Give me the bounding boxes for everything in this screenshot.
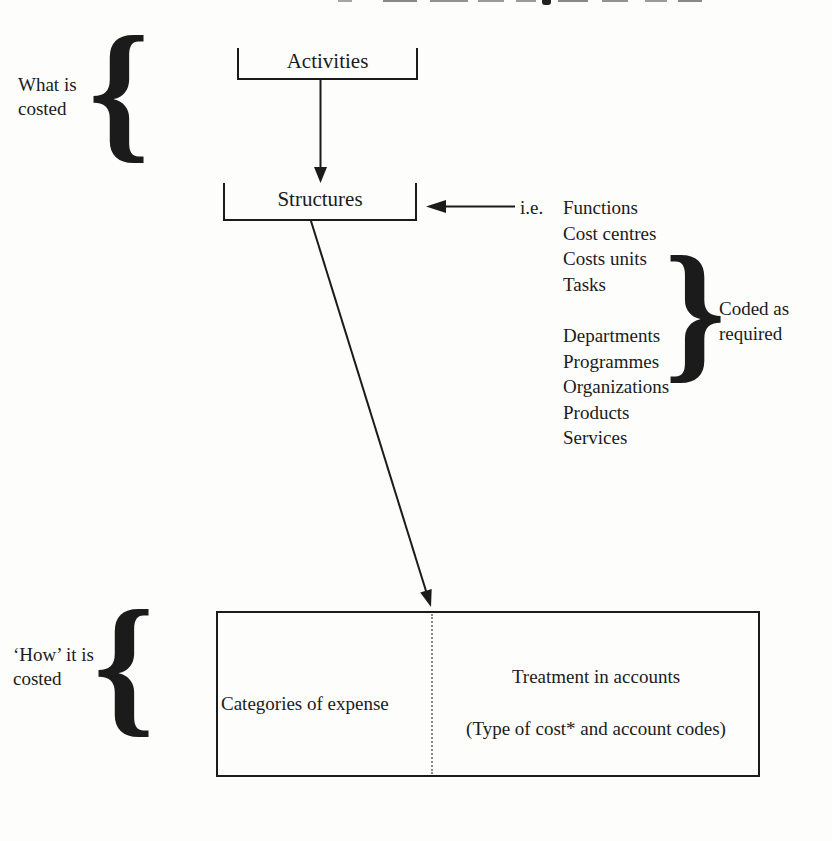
arrow-examples-to-structures xyxy=(426,200,515,213)
example-costs-units: Costs units xyxy=(563,246,669,272)
arrow-activities-to-structures xyxy=(314,80,327,183)
scanned-diagram-page: What is costed { Activities Structures i… xyxy=(0,0,832,841)
expense-box: Categories of expense Treatment in accou… xyxy=(216,611,760,777)
structure-examples-list: Functions Cost centres Costs units Tasks… xyxy=(563,195,669,451)
how-it-is-costed-line1: ‘How’ it is xyxy=(13,643,94,667)
coded-as-required-label: Coded as required xyxy=(719,296,789,346)
ie-prefix: i.e. xyxy=(520,195,543,220)
coded-as-line1: Coded as xyxy=(719,296,789,321)
example-programmes: Programmes xyxy=(563,349,669,375)
arrow-structures-to-expense-box xyxy=(311,221,432,607)
treatment-in-accounts-cell: Treatment in accounts (Type of cost* and… xyxy=(434,613,758,775)
left-brace-how-it-is: { xyxy=(93,588,155,743)
treatment-in-accounts-line: Treatment in accounts xyxy=(434,666,758,688)
example-departments: Departments xyxy=(563,323,669,349)
example-products: Products xyxy=(563,400,669,426)
how-it-is-costed-line2: costed xyxy=(13,667,94,691)
example-cost-centres: Cost centres xyxy=(563,221,669,247)
example-functions: Functions xyxy=(563,195,669,221)
type-of-cost-line: (Type of cost* and account codes) xyxy=(434,718,758,740)
example-services: Services xyxy=(563,425,669,451)
dotted-divider xyxy=(431,614,433,774)
example-organizations: Organizations xyxy=(563,374,669,400)
how-it-is-costed-label: ‘How’ it is costed xyxy=(13,643,94,691)
coded-as-line2: required xyxy=(719,321,789,346)
categories-of-expense-cell: Categories of expense xyxy=(221,693,389,715)
right-brace-coded-as: } xyxy=(664,234,726,389)
example-tasks: Tasks xyxy=(563,272,669,298)
